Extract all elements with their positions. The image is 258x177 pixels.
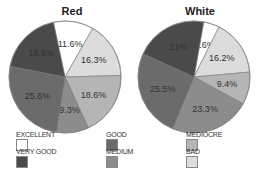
slice-label: 25.5% [150,84,176,94]
legend-swatch [106,156,118,168]
slice-label: 21% [169,42,187,52]
slice-label: 9.4% [217,79,238,89]
legend-item-bad: BAD [186,148,200,168]
slice-label: 18.6% [81,90,107,100]
slice-label: 23.3% [192,104,218,114]
slice-label: 25.6% [25,91,51,101]
legend-swatch [186,156,198,168]
chart-title-white: White [150,5,250,17]
slice-label: 16.3% [81,55,107,65]
chart-title-red: Red [22,5,122,17]
legend-label: VERY GOOD [16,148,56,156]
legend-label: MEDIOCRE [186,131,222,139]
slice-label: 16.2% [209,53,235,63]
pie-chart-red: 11.6%16.3%18.6%9.3%25.6%18.6% [5,17,125,137]
legend-label: EXCELLENT [16,131,55,139]
legend-item-very-good: VERY GOOD [16,148,56,168]
slice-label: 11.6% [58,39,83,49]
slice-label: 9.3% [59,105,80,115]
legend-label: MEDIUM [106,148,133,156]
pie-chart-white: 4.6%16.2%9.4%23.3%25.5%21% [134,17,254,137]
slice-label: 18.6% [28,48,54,58]
legend-swatch [16,156,28,168]
legend-item-medium: MEDIUM [106,148,133,168]
legend-label: GOOD [106,131,127,139]
legend-label: BAD [186,148,200,156]
